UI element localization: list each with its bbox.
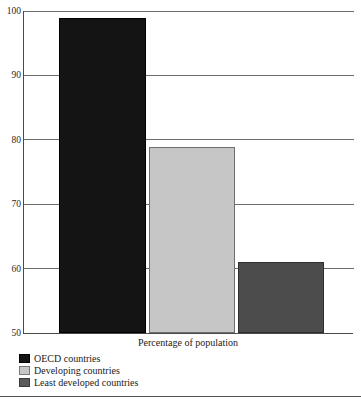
legend-label-oecd: OECD countries: [34, 353, 100, 364]
legend-swatch-icon-least-developed: [19, 378, 30, 387]
y-tick-label-70: 70: [2, 200, 21, 210]
y-tick-label-50: 50: [2, 329, 21, 339]
y-tick-label-60: 60: [2, 265, 21, 275]
bar-least-developed-countries: [238, 262, 324, 333]
x-axis-title: Percentage of population: [23, 337, 353, 349]
bar-chart-figure: 100 90 80 70 60 50 Percentage of populat…: [0, 0, 361, 406]
legend-item-developing-countries: Developing countries: [19, 364, 269, 376]
bar-developing-countries: [149, 147, 235, 333]
legend-item-least-developed-countries: Least developed countries: [19, 376, 269, 388]
legend-label-least-developed: Least developed countries: [34, 377, 138, 388]
legend-swatch-icon-oecd: [19, 354, 30, 363]
legend-label-developing: Developing countries: [34, 365, 120, 376]
gridline-100: [24, 11, 354, 12]
legend-item-oecd-countries: OECD countries: [19, 352, 269, 364]
bottom-divider: [0, 396, 361, 397]
y-tick-label-80: 80: [2, 136, 21, 146]
bar-oecd-countries: [59, 18, 146, 333]
y-tick-label-90: 90: [2, 71, 21, 81]
plot-area: 100 90 80 70 60 50: [23, 11, 353, 334]
legend-swatch-icon-developing: [19, 366, 30, 375]
y-tick-label-100: 100: [2, 7, 21, 17]
chart-legend: OECD countries Developing countries Leas…: [19, 352, 269, 388]
